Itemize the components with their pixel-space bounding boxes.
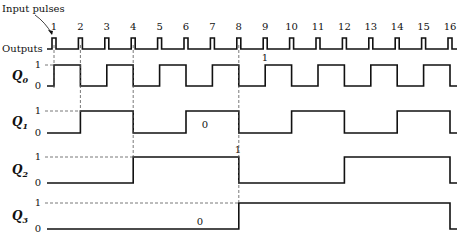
- pulse-number-14: 14: [391, 21, 404, 32]
- level-high-label: 1: [35, 197, 41, 208]
- pulse-number-1: 1: [51, 21, 57, 32]
- state-annotation: 0: [202, 119, 208, 130]
- state-annotation: 0: [197, 216, 203, 227]
- pulse-number-6: 6: [183, 21, 189, 32]
- input-pulses-label: Input pulses: [2, 3, 65, 14]
- pulse-number-7: 7: [209, 21, 215, 32]
- pulse-number-5: 5: [156, 21, 162, 32]
- signal-q2: Q2101: [12, 144, 457, 188]
- waveform-q0: [47, 65, 457, 86]
- level-high-label: 1: [35, 151, 41, 162]
- level-high-label: 1: [35, 105, 41, 116]
- waveform-q3: [47, 203, 457, 229]
- pulse-number-12: 12: [338, 21, 351, 32]
- level-low-label: 0: [35, 223, 41, 234]
- pulse-number-15: 15: [417, 21, 430, 32]
- input-pulse-train: [47, 38, 457, 49]
- signal-label-q3: Q3: [12, 209, 28, 225]
- level-high-label: 1: [35, 59, 41, 70]
- signal-q0: Q0101: [12, 52, 457, 91]
- timing-diagram: Input pulsesOutputs123456789101112131415…: [0, 0, 468, 246]
- signal-label-q0: Q0: [12, 69, 28, 85]
- pulse-number-10: 10: [285, 21, 298, 32]
- outputs-label: Outputs: [2, 43, 43, 54]
- waveform-q1: [47, 111, 457, 133]
- state-annotation: 1: [262, 52, 268, 63]
- pulse-number-2: 2: [77, 21, 83, 32]
- level-low-label: 0: [35, 127, 41, 138]
- pulse-number-8: 8: [236, 21, 242, 32]
- signal-label-q2: Q2: [12, 163, 28, 179]
- pulse-number-16: 16: [444, 21, 457, 32]
- pulse-number-13: 13: [364, 21, 377, 32]
- level-low-label: 0: [35, 177, 41, 188]
- state-annotation: 1: [235, 144, 241, 155]
- waveform-q2: [47, 157, 457, 183]
- pulse-number-3: 3: [104, 21, 110, 32]
- pulse-number-9: 9: [262, 21, 268, 32]
- pulse-number-11: 11: [312, 21, 325, 32]
- signal-label-q1: Q1: [12, 115, 28, 131]
- pulse-number-4: 4: [130, 21, 136, 32]
- signal-q1: Q1100: [12, 105, 457, 138]
- signal-q3: Q3100: [12, 197, 457, 234]
- level-low-label: 0: [35, 80, 41, 91]
